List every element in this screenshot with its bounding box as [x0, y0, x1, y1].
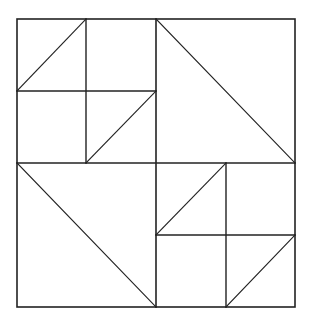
diagonal-line [86, 91, 156, 163]
diagonal-line [156, 19, 295, 163]
diagonal-line [17, 19, 86, 91]
diagonal-line [226, 235, 295, 307]
mid-lines [17, 19, 295, 307]
quilt-diagram [0, 0, 317, 321]
diagonal-line [156, 163, 226, 235]
diagonal-line [17, 163, 156, 307]
quadrant-bottom-right [156, 163, 295, 307]
quadrant-bottom-left [17, 163, 156, 307]
quadrant-top-left [17, 19, 156, 163]
quadrant-top-right [156, 19, 295, 163]
